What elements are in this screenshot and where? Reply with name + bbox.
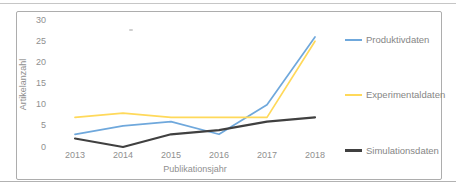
y-tick-label: 30 [20, 15, 46, 26]
series-line-experimentaldaten [75, 41, 315, 117]
legend-label: Experimentaldaten [366, 89, 445, 100]
legend-line-swatch [345, 149, 362, 152]
x-tick-label: 2015 [149, 150, 193, 161]
x-tick-label: 2017 [245, 150, 289, 161]
legend-line-swatch [345, 94, 362, 96]
legend-item-produktivdaten: Produktivdaten [345, 34, 429, 45]
legend-item-simulationsdaten: Simulationsdaten [345, 145, 439, 156]
series-line-simulationsdaten [75, 117, 315, 147]
legend-item-experimentaldaten: Experimentaldaten [345, 89, 445, 100]
legend-label: Simulationsdaten [366, 145, 439, 156]
legend-line-swatch [345, 39, 362, 41]
scan-artifact-speck [129, 29, 133, 31]
x-tick-label: 2013 [53, 150, 97, 161]
y-tick-label: 0 [20, 142, 46, 153]
y-tick-label: 20 [20, 57, 46, 68]
y-tick-label: 15 [20, 78, 46, 89]
y-tick-label: 10 [20, 99, 46, 110]
legend-label: Produktivdaten [366, 34, 429, 45]
x-tick-label: 2018 [293, 150, 337, 161]
x-tick-label: 2014 [101, 150, 145, 161]
y-tick-label: 25 [20, 36, 46, 47]
y-tick-label: 5 [20, 120, 46, 131]
figure: Artikelanzahl Publikationsjahr 051015202… [0, 0, 456, 193]
x-tick-label: 2016 [197, 150, 241, 161]
